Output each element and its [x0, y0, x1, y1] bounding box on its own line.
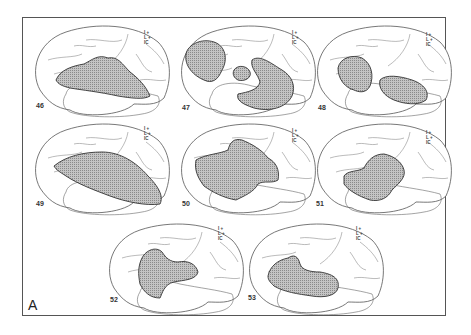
panel-legend: I + L + IC [426, 130, 433, 145]
panel-legend: I + L + IC [218, 226, 225, 241]
panel-number: 48 [318, 104, 326, 111]
panel-legend: I + L + IC [356, 226, 363, 241]
panel-number: 50 [182, 200, 190, 207]
lesion-region [233, 66, 250, 80]
panel-legend: I + L + IC [292, 128, 299, 143]
panel-legend: I + L + IC [144, 126, 151, 141]
brain-panel-53: 53 I + L + IC [240, 218, 390, 318]
panel-number: 52 [110, 296, 118, 303]
brain-panel-49: 49 I + L + IC [26, 118, 176, 218]
brain-panel-51: 51 I + L + IC [308, 118, 458, 218]
figure-label: A [28, 297, 37, 313]
brain-panel-50: 50 I + L + IC [172, 118, 322, 218]
panel-number: 51 [316, 200, 324, 207]
panel-legend: I + L + IC [426, 32, 433, 47]
brain-panel-47: 47 I + L + IC [172, 20, 322, 120]
panel-number: 46 [36, 102, 44, 109]
brain-panel-48: 48 I + L + IC [308, 20, 458, 120]
brain-panel-52: 52 I + L + IC [100, 218, 250, 318]
brain-panel-46: 46 I + L + IC [26, 20, 176, 120]
panel-number: 49 [36, 200, 44, 207]
panel-number: 47 [182, 104, 190, 111]
panel-legend: I + L + IC [292, 30, 299, 45]
panel-legend: I + L + IC [144, 30, 151, 45]
panel-number: 53 [248, 294, 256, 301]
